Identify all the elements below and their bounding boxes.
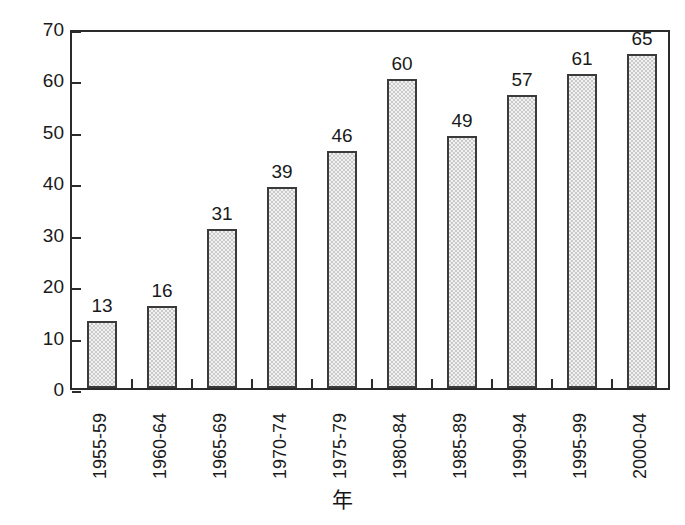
- bar[interactable]: [387, 79, 417, 388]
- bar[interactable]: [627, 54, 657, 388]
- bar-slot: 16: [132, 32, 192, 388]
- bar[interactable]: [447, 136, 477, 388]
- x-axis-tick-label: 1985-89: [450, 396, 470, 496]
- x-axis-tick-label: 1995-99: [570, 396, 590, 496]
- y-axis-tick-label: 10: [18, 329, 64, 348]
- bar-value-label: 61: [552, 49, 612, 68]
- bar[interactable]: [567, 74, 597, 388]
- bar-slot: 13: [72, 32, 132, 388]
- y-axis-tick-label: 0: [18, 380, 64, 399]
- bar-slot: 46: [312, 32, 372, 388]
- bar[interactable]: [507, 95, 537, 388]
- bar-slot: 61: [552, 32, 612, 388]
- x-axis-tick-label: 1960-64: [150, 396, 170, 496]
- y-axis-tick-label: 50: [18, 123, 64, 142]
- bar-slot: 49: [432, 32, 492, 388]
- bar-value-label: 16: [132, 281, 192, 300]
- plot-inner: 13163139466049576165: [72, 32, 668, 388]
- bar-slot: 65: [612, 32, 672, 388]
- bar-value-label: 57: [492, 70, 552, 89]
- x-axis-tick-label: 1990-94: [510, 396, 530, 496]
- bar[interactable]: [207, 229, 237, 388]
- y-axis-tick-label: 30: [18, 226, 64, 245]
- bar-value-label: 39: [252, 162, 312, 181]
- bar[interactable]: [267, 187, 297, 388]
- bar-slot: 57: [492, 32, 552, 388]
- bar[interactable]: [87, 321, 117, 388]
- x-axis-tick-label: 2000-04: [630, 396, 650, 496]
- bar-value-label: 46: [312, 126, 372, 145]
- y-axis-tick-label: 40: [18, 174, 64, 193]
- x-axis-title: 年: [0, 483, 685, 513]
- bar-value-label: 60: [372, 54, 432, 73]
- x-axis-tick-label: 1975-79: [330, 396, 350, 496]
- bar-slot: 60: [372, 32, 432, 388]
- bar-value-label: 65: [612, 29, 672, 48]
- bar-value-label: 13: [72, 296, 132, 315]
- x-axis-tick-label: 1980-84: [390, 396, 410, 496]
- bar[interactable]: [147, 306, 177, 388]
- bar-slot: 31: [192, 32, 252, 388]
- y-axis-tick-label: 60: [18, 71, 64, 90]
- bar-chart-figure: 掲載論文数（編/年） 010203040506070 1316313946604…: [0, 0, 685, 525]
- x-axis-tick-label: 1965-69: [210, 396, 230, 496]
- bar-slot: 39: [252, 32, 312, 388]
- y-axis-tick-labels: 010203040506070: [14, 0, 64, 525]
- plot-area: 13163139466049576165: [70, 30, 670, 390]
- bar[interactable]: [327, 151, 357, 388]
- y-axis-tick: [72, 391, 81, 393]
- x-axis-tick-label: 1970-74: [270, 396, 290, 496]
- y-axis-tick-label: 70: [18, 20, 64, 39]
- bar-value-label: 31: [192, 204, 252, 223]
- bar-value-label: 49: [432, 111, 492, 130]
- y-axis-tick-label: 20: [18, 277, 64, 296]
- x-axis-tick-label: 1955-59: [90, 396, 110, 496]
